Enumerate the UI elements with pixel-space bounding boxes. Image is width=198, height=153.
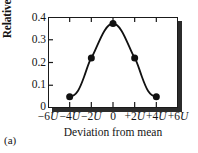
y-tick-label-0.1: 0.1 [20,79,46,89]
y-tick-label-0.3: 0.3 [20,34,46,44]
y-axis-title: Relative frequency [0,0,14,42]
data-curve [70,24,157,97]
x-tick-label-plus6U: +6U [161,110,195,123]
data-point [66,93,73,100]
x-axis-tick-labels: −6U −4U −2U 0 +2U +4U +6U [30,110,196,124]
y-tick-label-0.2: 0.2 [20,57,46,67]
data-point [110,20,117,27]
plot-frame-shadow-right [178,21,182,112]
x-axis-title: Deviation from mean [48,126,178,138]
panel-caption: (a) [4,134,16,146]
plot-area [48,17,178,108]
data-point [88,55,95,62]
figure-panel-a: Relative frequency 0.4 0.3 0.2 0.1 0 [0,0,198,153]
x-axis-ticks [70,102,157,108]
y-axis-ticks [48,40,53,86]
data-point [153,93,160,100]
data-point [131,55,138,62]
y-axis-tick-labels: 0.4 0.3 0.2 0.1 0 [18,0,46,153]
y-tick-label-0.4: 0.4 [20,12,46,22]
